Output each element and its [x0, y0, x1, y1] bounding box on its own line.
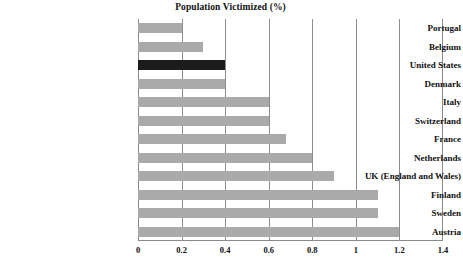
- bar: [138, 134, 286, 144]
- category-label: UK (England and Wales): [329, 171, 461, 181]
- category-label: Austria: [329, 227, 461, 237]
- bar: [138, 171, 334, 181]
- category-label: Denmark: [329, 79, 461, 89]
- x-tick-label: 1.4: [423, 245, 463, 255]
- category-label: Finland: [329, 190, 461, 200]
- x-tick-label: 0.4: [205, 245, 245, 255]
- bar: [138, 60, 225, 70]
- category-label: Italy: [329, 97, 461, 107]
- x-tick-label: 1.2: [379, 245, 419, 255]
- category-label: Sweden: [329, 208, 461, 218]
- bar: [138, 79, 225, 89]
- category-label: Portugal: [329, 23, 461, 33]
- x-tick-label: 0.2: [162, 245, 202, 255]
- category-label: Switzerland: [329, 116, 461, 126]
- category-label: Belgium: [329, 42, 461, 52]
- category-label: United States: [329, 60, 461, 70]
- bar: [138, 97, 269, 107]
- bar: [138, 42, 203, 52]
- x-tick-label: 1: [336, 245, 376, 255]
- chart-title: Population Victimized (%): [0, 2, 461, 12]
- category-label: Netherlands: [329, 153, 461, 163]
- bar: [138, 116, 269, 126]
- x-tick-label: 0.8: [292, 245, 332, 255]
- x-tick-label: 0: [118, 245, 158, 255]
- category-label: France: [329, 134, 461, 144]
- x-tick-label: 0.6: [249, 245, 289, 255]
- bar: [138, 23, 182, 33]
- bar: [138, 153, 312, 163]
